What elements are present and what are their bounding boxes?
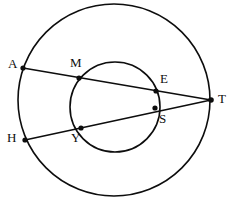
point-m-dot bbox=[76, 75, 81, 80]
point-label-t: T bbox=[218, 92, 226, 105]
point-a-dot bbox=[20, 65, 25, 70]
geometry-canvas bbox=[0, 0, 232, 202]
point-h-dot bbox=[22, 137, 27, 142]
point-label-s: S bbox=[159, 112, 166, 125]
point-e-dot bbox=[153, 88, 158, 93]
point-label-h: H bbox=[7, 131, 16, 144]
point-label-a: A bbox=[8, 57, 17, 70]
geometry-figure: A M E T S Y H bbox=[0, 0, 232, 202]
point-label-e: E bbox=[160, 72, 168, 85]
point-label-y: Y bbox=[71, 131, 80, 144]
point-label-m: M bbox=[70, 56, 82, 69]
secant-line-at bbox=[23, 68, 211, 100]
point-t-dot bbox=[208, 97, 214, 103]
inner-circle bbox=[70, 62, 160, 152]
secant-line-ht bbox=[25, 100, 211, 140]
point-s-dot bbox=[152, 105, 157, 110]
outer-circle bbox=[18, 4, 210, 196]
